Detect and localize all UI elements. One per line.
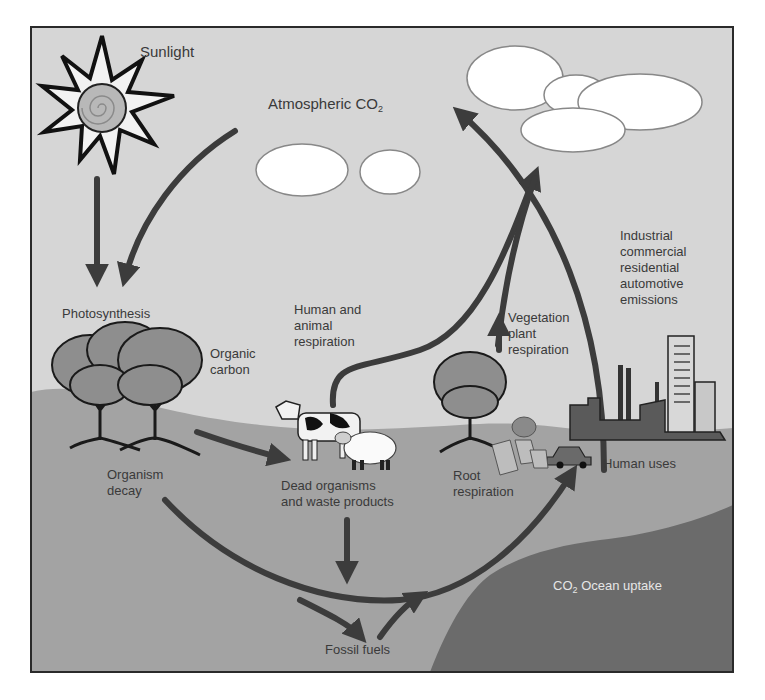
label-organic-carbon: Organic carbon: [210, 346, 256, 378]
label-human-animal-respiration: Human and animal respiration: [294, 302, 361, 350]
label-sunlight: Sunlight: [140, 43, 194, 61]
label-dead-organisms: Dead organisms and waste products: [281, 478, 394, 510]
label-root-respiration: Root respiration: [453, 468, 514, 500]
carbon-cycle-diagram: Sunlight Atmospheric CO2 Photosynthesis …: [0, 0, 765, 700]
label-atmospheric-co2: Atmospheric CO2: [268, 95, 383, 118]
label-human-uses: Human uses: [603, 456, 676, 472]
label-ocean-uptake-text: Ocean uptake: [578, 578, 663, 593]
label-vegetation-plant-respiration: Vegetation plant respiration: [508, 310, 569, 358]
label-atmospheric-co2-text: Atmospheric CO: [268, 95, 378, 112]
label-ocean-uptake: CO2 Ocean uptake: [553, 578, 662, 598]
label-emissions: Industrial commercial residential automo…: [620, 228, 686, 308]
label-fossil-fuels: Fossil fuels: [325, 642, 390, 658]
label-atmospheric-co2-subscript: 2: [378, 104, 383, 114]
label-ocean-uptake-co: CO: [553, 578, 573, 593]
label-organism-decay: Organism decay: [107, 467, 163, 499]
label-photosynthesis: Photosynthesis: [62, 306, 150, 322]
